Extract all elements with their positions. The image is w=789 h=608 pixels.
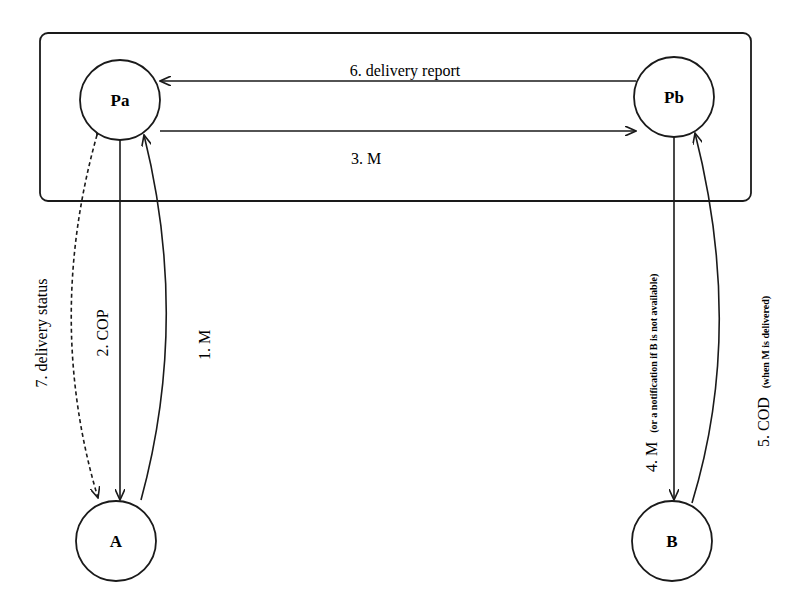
node-pa-label: Pa (111, 91, 130, 110)
node-b-label: B (666, 532, 677, 551)
edge-label-message-to-pb: 3. M (351, 150, 381, 167)
edge-label-delivery-status: 7. delivery status (33, 279, 51, 388)
edge-label-cod-main: 5. COD (755, 397, 772, 447)
edge-message-to-pb: 3. M (160, 131, 636, 167)
node-pa: Pa (80, 60, 160, 140)
edge-label-message-to-b: 4. M (or a notification if B is not avai… (643, 274, 660, 472)
node-pb: Pb (634, 57, 714, 137)
edge-label-cod-note: (when M is delivered) (760, 296, 772, 388)
node-a-label: A (110, 532, 123, 551)
edge-delivery-report: 6. delivery report (160, 62, 636, 81)
edge-delivery-status: 7. delivery status (33, 135, 98, 498)
edge-label-message-to-b-main: 4. M (643, 442, 660, 472)
edge-cod: 5. COD (when M is delivered) (692, 133, 772, 503)
edge-cop: 2. COP (94, 139, 120, 500)
edge-label-delivery-report: 6. delivery report (350, 62, 461, 80)
edge-label-message-to-pa: 1. M (196, 330, 213, 360)
node-pb-label: Pb (664, 88, 684, 107)
node-a: A (76, 501, 156, 581)
edge-message-to-pa: 1. M (141, 135, 213, 500)
edge-label-message-to-b-note: (or a notification if B is not available… (648, 274, 660, 433)
edge-label-cop: 2. COP (94, 309, 111, 356)
edge-label-cod: 5. COD (when M is delivered) (755, 296, 772, 447)
edge-message-to-b: 4. M (or a notification if B is not avai… (643, 137, 674, 500)
node-b: B (632, 501, 712, 581)
message-flow-diagram: 6. delivery report 3. M 2. COP 1. M 7. d… (0, 0, 789, 608)
